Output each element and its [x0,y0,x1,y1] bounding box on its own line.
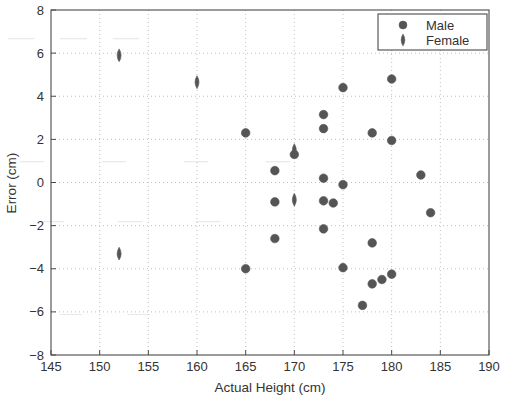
x-tick-label: 175 [332,359,354,374]
series-female [117,49,296,260]
y-axis-title: Error (cm) [4,153,19,214]
data-point-circle [329,199,338,208]
data-point-diamond [117,247,121,260]
y-tick-label: 0 [37,175,44,190]
data-point-circle [426,208,435,217]
chart-canvas: 145150155160165170175180185190 −8−6−4−20… [0,0,509,399]
data-point-circle [271,234,280,243]
data-points [117,49,435,310]
data-point-circle [368,239,377,248]
y-tick-label: 4 [37,89,44,104]
data-point-circle [339,180,348,189]
data-point-circle [368,280,377,289]
data-point-circle [319,197,328,206]
data-point-circle [368,129,377,138]
x-tick-label: 170 [283,359,305,374]
data-point-circle [271,166,280,175]
y-tick-label: −2 [29,218,44,233]
chart-legend: MaleFemale [378,14,487,50]
data-point-circle [339,83,348,92]
data-point-circle [387,270,396,279]
x-tick-label: 165 [235,359,257,374]
data-point-circle [241,264,250,273]
data-point-circle [271,198,280,207]
scatter-plot-figure: — — — — — — — — — — — — 1451501551601651… [0,0,509,399]
x-tick-label: 155 [137,359,159,374]
data-point-circle [319,174,328,183]
data-point-circle [387,75,396,84]
legend-label-female: Female [426,33,469,48]
series-male [241,75,435,310]
x-tick-label: 180 [381,359,403,374]
x-tick-labels: 145150155160165170175180185190 [40,359,500,374]
data-point-circle [358,301,367,310]
x-axis-title: Actual Height (cm) [214,380,325,395]
x-tick-label: 150 [89,359,111,374]
data-point-circle [319,110,328,119]
y-tick-label: 6 [37,46,44,61]
y-tick-label: 2 [37,132,44,147]
y-tick-label: −8 [29,348,44,363]
data-point-circle [417,171,426,180]
data-point-diamond [292,193,296,206]
y-tick-label: −4 [29,261,44,276]
data-point-circle [241,129,250,138]
data-point-diamond [195,76,199,89]
grid-lines [51,10,489,355]
data-point-diamond [117,49,121,62]
data-point-circle [319,225,328,234]
x-tick-label: 190 [478,359,500,374]
y-tick-labels: −8−6−4−202468 [29,3,44,363]
x-tick-label: 185 [429,359,451,374]
x-tick-label: 160 [186,359,208,374]
y-tick-label: −6 [29,304,44,319]
y-tick-label: 8 [37,3,44,18]
data-point-circle [319,124,328,133]
data-point-circle [387,136,396,145]
data-point-circle [339,263,348,272]
data-point-circle [378,275,387,284]
legend-label-male: Male [426,18,454,33]
legend-marker-male [399,21,407,29]
